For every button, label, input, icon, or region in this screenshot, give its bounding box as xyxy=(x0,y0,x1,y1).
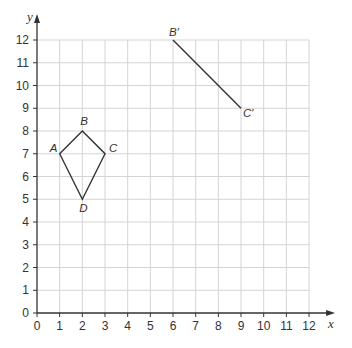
grid-lines xyxy=(37,40,309,313)
point-label-b: B xyxy=(80,115,88,127)
x-tick-label: 8 xyxy=(215,319,222,333)
y-axis-label: y xyxy=(25,9,33,24)
x-tick-label: 4 xyxy=(124,319,131,333)
x-tick-label: 0 xyxy=(34,319,41,333)
x-tick-label: 9 xyxy=(238,319,245,333)
y-tick-label: 2 xyxy=(22,261,29,275)
x-tick-label: 6 xyxy=(170,319,177,333)
y-tick-label: 1 xyxy=(22,283,29,297)
y-tick-label: 6 xyxy=(22,170,29,184)
x-axis-label: x xyxy=(327,316,334,331)
point-label-b-prime: B′ xyxy=(169,26,180,38)
x-tick-label: 5 xyxy=(147,319,154,333)
y-tick-label: 0 xyxy=(22,306,29,320)
segment-b-prime-c-prime xyxy=(173,40,241,108)
point-label-c: C xyxy=(109,142,118,154)
y-tick-label: 12 xyxy=(16,33,30,47)
y-tick-label: 4 xyxy=(22,215,29,229)
point-labels: ABCDB′C′ xyxy=(49,26,255,214)
point-label-a: A xyxy=(49,142,58,154)
x-tick-label: 7 xyxy=(192,319,199,333)
x-tick-label: 12 xyxy=(302,319,316,333)
y-tick-label: 3 xyxy=(22,238,29,252)
y-tick-label: 8 xyxy=(22,124,29,138)
x-tick-label: 3 xyxy=(102,319,109,333)
axes xyxy=(33,14,335,317)
y-tick-label: 9 xyxy=(22,101,29,115)
coordinate-plane: 01234567891011120123456789101112xy ABCDB… xyxy=(0,0,352,348)
point-label-d: D xyxy=(79,202,87,214)
x-tick-label: 2 xyxy=(79,319,86,333)
y-tick-label: 10 xyxy=(16,79,30,93)
x-tick-label: 10 xyxy=(257,319,271,333)
y-tick-label: 11 xyxy=(17,56,30,70)
x-tick-label: 1 xyxy=(56,319,63,333)
y-tick-label: 5 xyxy=(22,192,29,206)
y-tick-label: 7 xyxy=(22,147,29,161)
point-label-c-prime: C′ xyxy=(243,107,254,119)
y-axis-arrow-icon xyxy=(34,14,40,23)
x-tick-label: 11 xyxy=(280,319,293,333)
